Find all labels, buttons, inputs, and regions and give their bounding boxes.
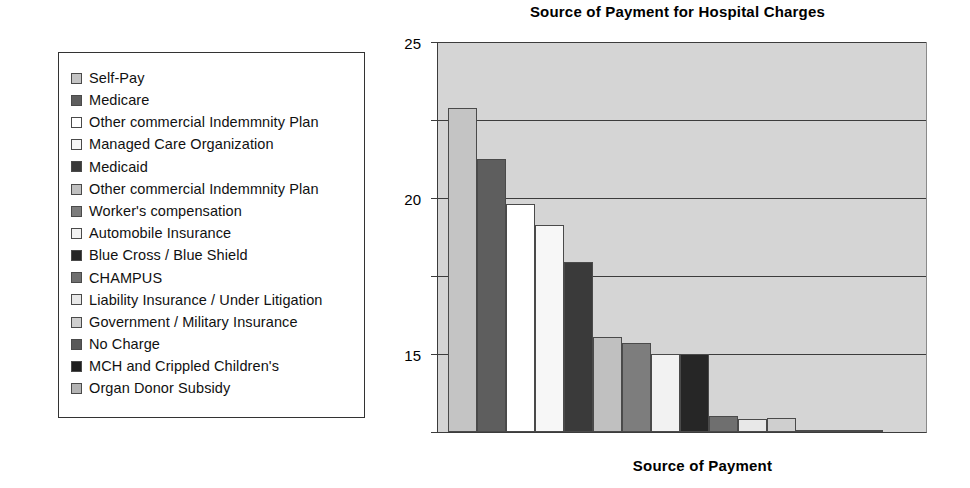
legend-item-label: Medicare: [89, 93, 149, 108]
bar: [796, 430, 825, 432]
legend-item: Liability Insurance / Under Litigation: [71, 289, 364, 311]
legend-item: Self-Pay: [71, 67, 364, 89]
legend-item-label: Blue Cross / Blue Shield: [89, 248, 248, 263]
legend-swatch-icon: [71, 95, 82, 106]
bar: [825, 430, 854, 432]
legend-item: Medicaid: [71, 156, 364, 178]
bar: [477, 159, 506, 432]
y-axis-tick-label: 25: [404, 35, 421, 52]
y-axis-tick: 5: [431, 354, 438, 355]
legend-item-label: No Charge: [89, 337, 160, 352]
bar: [448, 108, 477, 432]
legend-swatch-icon: [71, 117, 82, 128]
gridline: [438, 198, 926, 199]
legend-swatch-icon: [71, 383, 82, 394]
legend-item: Government / Military Insurance: [71, 311, 364, 333]
legend-swatch-icon: [71, 184, 82, 195]
legend-swatch-icon: [71, 228, 82, 239]
legend-item: No Charge: [71, 333, 364, 355]
bar-chart: Source of Payment for Hospital Charges P…: [390, 0, 970, 488]
y-axis-tick: 15: [431, 198, 438, 199]
bar: [767, 418, 796, 432]
bar: [651, 354, 680, 432]
plot-area: 0510152025: [437, 42, 927, 433]
bar: [622, 343, 651, 432]
gridline: [438, 42, 926, 43]
legend-item-label: Organ Donor Subsidy: [89, 381, 230, 396]
bar: [709, 416, 738, 432]
legend-item: Worker's compensation: [71, 200, 364, 222]
chart-legend: Self-PayMedicareOther commercial Indemmn…: [58, 52, 365, 418]
legend-item: Managed Care Organization: [71, 134, 364, 156]
legend-item: Other commercial Indemmnity Plan: [71, 111, 364, 133]
legend-swatch-icon: [71, 294, 82, 305]
legend-item: Automobile Insurance: [71, 222, 364, 244]
y-axis-tick-label: 15: [404, 347, 421, 364]
legend-swatch-icon: [71, 272, 82, 283]
legend-swatch-icon: [71, 161, 82, 172]
bar: [593, 337, 622, 432]
chart-title: Source of Payment for Hospital Charges: [390, 3, 965, 20]
legend-swatch-icon: [71, 206, 82, 217]
bar: [564, 262, 593, 432]
y-axis-tick: 20: [431, 120, 438, 121]
legend-swatch-icon: [71, 339, 82, 350]
legend-item-label: Worker's compensation: [89, 204, 242, 219]
legend-item: CHAMPUS: [71, 267, 364, 289]
legend-swatch-icon: [71, 73, 82, 84]
bar: [680, 354, 709, 432]
legend-item-label: Self-Pay: [89, 71, 145, 86]
legend-item-label: Automobile Insurance: [89, 226, 231, 241]
bar: [535, 225, 564, 432]
bar: [854, 430, 883, 432]
legend-item: MCH and Crippled Children's: [71, 355, 364, 377]
legend-item: Blue Cross / Blue Shield: [71, 245, 364, 267]
legend-item-label: Other commercial Indemmnity Plan: [89, 182, 319, 197]
legend-swatch-icon: [71, 139, 82, 150]
legend-item-label: Other commercial Indemmnity Plan: [89, 115, 319, 130]
bar: [738, 419, 767, 432]
legend-item-label: CHAMPUS: [89, 271, 162, 286]
x-axis-label: Source of Payment: [435, 457, 970, 474]
legend-item: Other commercial Indemmnity Plan: [71, 178, 364, 200]
y-axis-tick: 25: [431, 42, 438, 43]
legend-item-label: Government / Military Insurance: [89, 315, 298, 330]
y-axis-tick-label: 20: [404, 191, 421, 208]
legend-item: Organ Donor Subsidy: [71, 378, 364, 400]
legend-swatch-icon: [71, 317, 82, 328]
gridline: [438, 120, 926, 121]
y-axis-tick: 0: [431, 432, 438, 433]
bar: [506, 204, 535, 432]
legend-item-label: Managed Care Organization: [89, 137, 274, 152]
legend-item-label: Medicaid: [89, 160, 148, 175]
y-axis-tick: 10: [431, 276, 438, 277]
legend-swatch-icon: [71, 361, 82, 372]
legend-item: Medicare: [71, 89, 364, 111]
legend-item-label: MCH and Crippled Children's: [89, 359, 279, 374]
legend-swatch-icon: [71, 250, 82, 261]
legend-item-label: Liability Insurance / Under Litigation: [89, 293, 323, 308]
